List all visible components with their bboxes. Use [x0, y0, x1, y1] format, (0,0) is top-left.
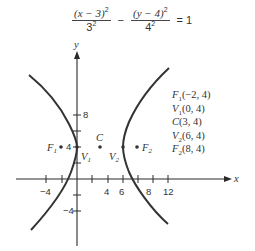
focus-f1-dot: [59, 145, 63, 149]
c-label: C: [96, 132, 104, 143]
legend-item-v1: V1(0, 4): [172, 102, 211, 116]
focus-f2-dot: [135, 145, 139, 149]
y-axis-label: y: [73, 39, 79, 50]
vertex-v1-dot: [75, 145, 79, 149]
y-axis-arrow-icon: [74, 51, 80, 59]
f2-label: F2: [141, 142, 152, 155]
x-axis-label: x: [233, 173, 239, 184]
f1-label: F1: [46, 142, 57, 155]
legend-item-f2: F2(8, 4): [172, 142, 211, 156]
legend-item-c: C(3, 4): [172, 115, 211, 129]
legend-item-f1: F1(−2, 4): [172, 88, 211, 102]
v1-label: V1: [81, 151, 91, 164]
y-tick-label: −4: [63, 205, 74, 216]
x-axis-arrow-icon: [224, 176, 232, 182]
y-tick-label: 8: [83, 109, 88, 120]
coordinates-legend: F1(−2, 4) V1(0, 4) C(3, 4) V2(6, 4) F2(8…: [172, 88, 211, 156]
x-tick-label: 4: [104, 186, 109, 197]
center-c-dot: [98, 145, 102, 149]
x-tick-label: 8: [146, 186, 151, 197]
hyperbola-graph: x y −4 4 6 8 12 8 4 −4 F1 V1 C V2 F2: [0, 0, 255, 251]
vertex-v2-dot: [121, 145, 125, 149]
v2-label: V2: [109, 151, 119, 164]
y-tick-label: 4: [66, 141, 71, 152]
x-tick-label: 12: [163, 186, 174, 197]
x-tick-label: −4: [40, 186, 51, 197]
legend-item-v2: V2(6, 4): [172, 129, 211, 143]
x-tick-label: 6: [119, 186, 124, 197]
